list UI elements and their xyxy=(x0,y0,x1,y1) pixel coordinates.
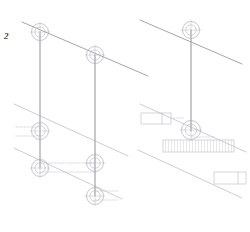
node-lower-right xyxy=(85,186,105,206)
node-upper-left xyxy=(30,22,50,42)
callout-box-right xyxy=(214,172,246,184)
node-mid-left xyxy=(30,121,50,141)
mid-band-upper-line xyxy=(14,104,128,156)
node-lower-left xyxy=(30,158,50,178)
upper-chord-line xyxy=(22,22,148,76)
right-detail-panel xyxy=(138,20,246,198)
node-upper-right xyxy=(85,45,105,65)
callout-box-right-outline xyxy=(214,172,246,184)
technical-drawing-canvas xyxy=(0,0,250,232)
node-mid-center xyxy=(180,119,202,141)
mid-band-lower-line xyxy=(138,150,242,198)
mid-band-lower-line xyxy=(14,148,122,199)
callout-box-left xyxy=(141,113,171,124)
node-lower-mid xyxy=(85,153,105,173)
node-upper-center xyxy=(181,20,201,40)
callout-box-left-outline xyxy=(141,113,171,124)
left-detail-panel xyxy=(14,22,148,206)
callout-box-center xyxy=(163,140,234,152)
detail-number-label: 2 xyxy=(4,32,9,41)
drawing-sheet: 2 xyxy=(0,0,250,232)
geometry-root xyxy=(14,20,246,206)
callout-box-center-hatch-fill xyxy=(163,140,234,152)
